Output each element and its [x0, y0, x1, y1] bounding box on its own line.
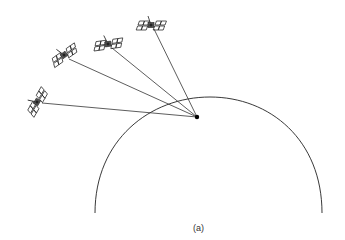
receiver-dot: [195, 115, 199, 119]
satellite-icon: [47, 39, 80, 68]
earth-surface-arc: [95, 97, 322, 213]
gps-diagram: [0, 0, 345, 240]
caption-text: (a): [193, 223, 204, 233]
signal-line-4: [42, 103, 197, 117]
satellite-icon: [92, 33, 124, 51]
figure-caption: (a): [193, 223, 204, 233]
satellite-icon: [22, 84, 49, 117]
satellite-icon: [136, 16, 166, 30]
signal-line-2: [112, 48, 197, 117]
signal-line-3: [69, 59, 197, 117]
signal-line-1: [154, 29, 197, 117]
